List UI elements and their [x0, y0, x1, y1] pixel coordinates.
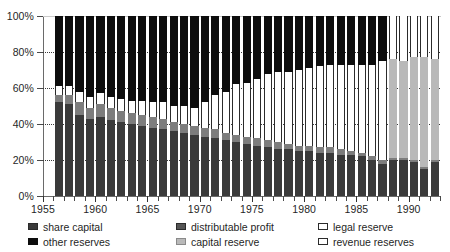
y-tick-label-40: 40%: [13, 118, 34, 130]
legend-item-capital-reserve[interactable]: capital reserve: [176, 234, 274, 249]
bar-1969[interactable]: [190, 16, 198, 196]
bar-segment-lr-1978: [284, 120, 292, 143]
bar-segment-or-1966: [159, 16, 167, 102]
chart-legend: share capital other reserves distributab…: [0, 219, 450, 252]
bar-segment-rr-1988: [389, 16, 397, 59]
bar-segment-dp-1968: [180, 124, 188, 133]
bar-segment-rr-1990: [410, 16, 418, 57]
bar-segment-sc-1956: [55, 102, 63, 196]
bar-1974[interactable]: [243, 16, 251, 196]
bar-segment-lr-1968: [180, 106, 188, 124]
y-tick-label-60: 60%: [13, 82, 34, 94]
bar-segment-rr-1985: [358, 65, 366, 128]
bar-1986[interactable]: [368, 16, 376, 196]
bar-1968[interactable]: [180, 16, 188, 196]
legend-item-distributable-profit[interactable]: distributable profit: [176, 219, 274, 234]
bar-1963[interactable]: [128, 16, 136, 196]
bar-segment-or-1969: [190, 16, 198, 108]
bar-1960[interactable]: [96, 16, 104, 196]
x-tick-1980: [304, 196, 305, 202]
bar-1967[interactable]: [170, 16, 178, 196]
x-tick-1978: [283, 196, 284, 201]
y-tick-80: [37, 52, 43, 53]
bar-segment-lr-1976: [264, 117, 272, 140]
bar-segment-sc-1972: [222, 140, 230, 196]
plot-area: [43, 16, 440, 196]
bar-1966[interactable]: [159, 16, 167, 196]
bar-segment-cr-1990: [410, 57, 418, 160]
x-tick-1993: [440, 196, 441, 201]
bar-segment-dp-1967: [170, 122, 178, 131]
bar-segment-rr-1982: [326, 65, 334, 123]
bar-1956[interactable]: [55, 16, 63, 196]
x-tick-label-1970: 1970: [188, 203, 212, 215]
bar-segment-or-1987: [378, 16, 386, 61]
bar-1987[interactable]: [378, 16, 386, 196]
bar-segment-rr-1992: [431, 16, 439, 59]
bar-segment-or-1967: [170, 16, 178, 106]
legend-item-legal-reserve[interactable]: legal reserve: [318, 219, 414, 234]
bar-1988[interactable]: [389, 16, 397, 196]
bar-segment-cr-1992: [431, 59, 439, 160]
legend-label-share-capital: share capital: [43, 221, 103, 233]
x-tick-1960: [95, 196, 96, 202]
bar-1957[interactable]: [65, 16, 73, 196]
bar-segment-dp-1966: [159, 119, 167, 130]
bar-1959[interactable]: [86, 16, 94, 196]
bar-segment-dp-1962: [117, 111, 125, 122]
x-tick-1966: [158, 196, 159, 201]
bar-1976[interactable]: [264, 16, 272, 196]
bar-segment-lr-1980: [305, 120, 313, 145]
bar-segment-sc-1975: [253, 146, 261, 196]
bar-1958[interactable]: [75, 16, 83, 196]
bar-segment-lr-1975: [253, 117, 261, 139]
legend-swatch-revenue-reserves: [318, 238, 328, 245]
bar-1970[interactable]: [201, 16, 209, 196]
bar-segment-rr-1980: [305, 68, 313, 120]
bar-1990[interactable]: [410, 16, 418, 196]
bar-segment-or-1974: [243, 16, 251, 83]
legend-item-revenue-reserves[interactable]: revenue reserves: [318, 234, 414, 249]
bar-1973[interactable]: [232, 16, 240, 196]
bar-1978[interactable]: [284, 16, 292, 196]
bar-1961[interactable]: [107, 16, 115, 196]
y-tick-20: [37, 160, 43, 161]
x-tick-label-1985: 1985: [345, 203, 369, 215]
bar-1979[interactable]: [295, 16, 303, 196]
bar-segment-lr-1987: [378, 135, 386, 160]
bar-1983[interactable]: [337, 16, 345, 196]
bar-segment-or-1986: [368, 16, 376, 65]
bar-1962[interactable]: [117, 16, 125, 196]
bar-1985[interactable]: [358, 16, 366, 196]
bar-segment-sc-1980: [305, 151, 313, 196]
bar-1984[interactable]: [347, 16, 355, 196]
bar-1982[interactable]: [326, 16, 334, 196]
bar-1964[interactable]: [138, 16, 146, 196]
bar-1989[interactable]: [399, 16, 407, 196]
bar-1977[interactable]: [274, 16, 282, 196]
bar-1965[interactable]: [149, 16, 157, 196]
bar-segment-lr-1971: [211, 110, 219, 130]
bar-segment-rr-1974: [243, 83, 251, 115]
bar-segment-lr-1967: [170, 106, 178, 122]
legend-item-share-capital[interactable]: share capital: [28, 219, 110, 234]
bar-1980[interactable]: [305, 16, 313, 196]
bar-segment-rr-1986: [368, 65, 376, 132]
bar-segment-sc-1968: [180, 133, 188, 196]
bar-segment-sc-1974: [243, 144, 251, 196]
bar-segment-lr-1981: [316, 122, 324, 147]
bar-1992[interactable]: [431, 16, 439, 196]
legend-item-other-reserves[interactable]: other reserves: [28, 234, 110, 249]
bar-1972[interactable]: [222, 16, 230, 196]
bar-segment-or-1965: [149, 16, 157, 102]
x-tick-1968: [179, 196, 180, 201]
legend-label-distributable-profit: distributable profit: [191, 221, 274, 233]
bar-1981[interactable]: [316, 16, 324, 196]
bar-segment-sc-1973: [232, 142, 240, 196]
bar-1971[interactable]: [211, 16, 219, 196]
bar-1975[interactable]: [253, 16, 261, 196]
x-tick-1962: [116, 196, 117, 201]
bar-segment-sc-1960: [96, 117, 104, 196]
bar-1991[interactable]: [420, 16, 428, 196]
bar-segment-or-1962: [117, 16, 125, 99]
